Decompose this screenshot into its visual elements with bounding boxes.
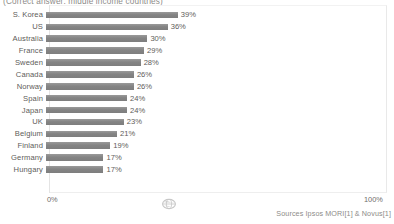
x-tick-max: 100% [364,195,383,204]
bar-value-label: 23% [127,117,142,126]
bar-value-label: 24% [130,106,145,115]
bar-track: 26% [46,68,394,80]
bar-row: US36% [0,21,394,33]
bar [46,154,103,161]
bar [46,59,141,66]
source-note: Sources Ipsos MORI[1] & Novus[1] [276,209,391,218]
bar-track: 30% [46,33,394,45]
bar-category-label: Hungary [0,165,46,174]
bar-category-label: Sweden [0,58,46,67]
bar [46,142,110,149]
bar-value-label: 26% [137,82,152,91]
bar-value-label: 36% [171,22,186,31]
bar-category-label: Germany [0,153,46,162]
bar [46,12,178,19]
bar [46,107,127,114]
bar-row: Australia30% [0,33,394,45]
bar [46,24,168,31]
bar-row: Germany17% [0,152,394,164]
bar-category-label: Finland [0,141,46,150]
bar-row: Canada26% [0,68,394,80]
bar-category-label: UK [0,117,46,126]
bar-value-label: 24% [130,94,145,103]
bar-category-label: Australia [0,34,46,43]
bar-row: Belgium21% [0,128,394,140]
bar-value-label: 17% [106,153,121,162]
x-axis: 0% 100% [0,195,394,207]
bar-row: S. Korea39% [0,9,394,21]
bar-track: 19% [46,140,394,152]
bar-row: Hungary17% [0,164,394,176]
bar [46,71,134,78]
bar-chart: (Correct answer: middle income countries… [0,0,394,224]
bar-value-label: 19% [113,141,128,150]
bar-row: Norway26% [0,80,394,92]
bar-category-label: Spain [0,94,46,103]
bar-track: 39% [46,9,394,21]
bar-category-label: Belgium [0,129,46,138]
bar-track: 29% [46,45,394,57]
bar-row: France29% [0,45,394,57]
gapminder-globe-logo-icon [159,197,179,211]
bar-track: 24% [46,104,394,116]
bar-value-label: 26% [137,70,152,79]
bar-category-label: Canada [0,70,46,79]
bar [46,35,147,42]
bar-value-label: 39% [181,10,196,19]
bar [46,119,124,126]
bar-track: 23% [46,116,394,128]
bar-track: 17% [46,164,394,176]
bar-category-label: Norway [0,82,46,91]
x-tick-min: 0% [47,195,58,204]
bar-track: 17% [46,152,394,164]
bar [46,95,127,102]
bar-track: 36% [46,21,394,33]
bar-value-label: 29% [147,46,162,55]
bar-rows: S. Korea39%US36%Australia30%France29%Swe… [0,9,394,175]
bar [46,83,134,90]
bar-category-label: S. Korea [0,10,46,19]
bar-category-label: France [0,46,46,55]
bar-row: UK23% [0,116,394,128]
bar-value-label: 30% [150,34,165,43]
bar-row: Spain24% [0,92,394,104]
bar-track: 28% [46,57,394,69]
bar [46,47,144,54]
bar-track: 24% [46,92,394,104]
bar [46,131,117,138]
bar-track: 21% [46,128,394,140]
bar-row: Sweden28% [0,57,394,69]
bar-value-label: 28% [144,58,159,67]
bar-row: Japan24% [0,104,394,116]
bar-value-label: 17% [106,165,121,174]
bar-row: Finland19% [0,140,394,152]
bar-value-label: 21% [120,129,135,138]
bar-category-label: US [0,22,46,31]
bar-category-label: Japan [0,106,46,115]
bar-track: 26% [46,80,394,92]
bar [46,166,103,173]
